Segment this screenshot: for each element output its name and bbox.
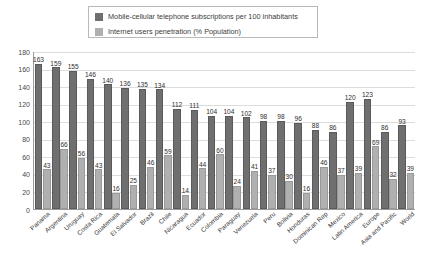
bar: 146 (87, 79, 95, 209)
bar-group: 13546 (138, 52, 155, 209)
y-tick-label: 80 (5, 136, 30, 143)
bar: 159 (52, 67, 60, 209)
legend-item-mobile: Mobile-cellular telephone subscriptions … (95, 10, 312, 23)
bar-group: 10241 (242, 52, 259, 209)
bar: 14 (182, 195, 190, 209)
bar-value-label: 159 (50, 61, 61, 68)
legend-item-internet: Internet users penetration (% Population… (95, 25, 312, 38)
bar: 136 (121, 88, 129, 209)
bar-chart: Mobile-cellular telephone subscriptions … (0, 0, 422, 273)
legend-label-internet: Internet users penetration (% Population… (108, 28, 241, 36)
bar: 37 (337, 175, 345, 209)
bar: 46 (320, 167, 328, 209)
bar: 60 (216, 154, 224, 209)
bar-value-label: 43 (95, 163, 102, 170)
bar-value-label: 136 (120, 81, 131, 88)
bar-group: 9837 (259, 52, 276, 209)
bar-value-label: 98 (260, 114, 267, 121)
bar-group: 8637 (328, 52, 345, 209)
bar-value-label: 44 (199, 162, 206, 169)
bar: 44 (199, 168, 207, 209)
bar-group: 11214 (173, 52, 190, 209)
bar-value-label: 24 (234, 179, 241, 186)
y-tick-label: 20 (5, 189, 30, 196)
bar-value-label: 93 (398, 119, 405, 126)
bar-value-label: 16 (112, 186, 119, 193)
y-tick-label: 120 (5, 101, 30, 108)
bar: 98 (260, 121, 268, 209)
bar-series-container: 1634315966155561464314016136251354613459… (34, 52, 415, 209)
bar: 32 (389, 179, 397, 209)
bar-group: 15556 (69, 52, 86, 209)
bar-value-label: 86 (381, 125, 388, 132)
bar-group: 13625 (121, 52, 138, 209)
bar: 16 (303, 193, 311, 209)
y-tick-label: 160 (5, 66, 30, 73)
bar: 102 (243, 117, 251, 209)
bar-value-label: 98 (277, 114, 284, 121)
bar: 16 (112, 193, 120, 209)
bar: 98 (277, 121, 285, 209)
bar: 135 (139, 89, 147, 210)
bar-group: 11144 (190, 52, 207, 209)
bar-value-label: 56 (78, 151, 85, 158)
bar-group: 12039 (346, 52, 363, 209)
bar: 104 (225, 116, 233, 209)
bar-value-label: 46 (147, 160, 154, 167)
y-tick-label: 40 (5, 171, 30, 178)
bar-group: 9830 (276, 52, 293, 209)
plot-area: 1634315966155561464314016136251354613459… (33, 52, 415, 210)
bar-value-label: 59 (164, 149, 171, 156)
bar-group: 14016 (103, 52, 120, 209)
y-tick-label: 180 (5, 49, 30, 56)
bar-value-label: 41 (251, 164, 258, 171)
bar: 86 (329, 132, 337, 209)
bar: 46 (147, 167, 155, 209)
bar-value-label: 30 (286, 174, 293, 181)
bar: 134 (156, 89, 164, 209)
chart-legend: Mobile-cellular telephone subscriptions … (88, 6, 318, 38)
bar-group: 14643 (86, 52, 103, 209)
bar-group: 13459 (155, 52, 172, 209)
bar-value-label: 104 (206, 109, 217, 116)
bar-value-label: 146 (85, 72, 96, 79)
bar-value-label: 14 (182, 188, 189, 195)
x-tick-label: World (399, 211, 416, 227)
bar-value-label: 16 (303, 186, 310, 193)
bar: 37 (268, 175, 276, 209)
bar: 155 (69, 71, 77, 209)
bar-value-label: 37 (337, 168, 344, 175)
bar: 120 (346, 102, 354, 209)
bar: 104 (208, 116, 216, 209)
bar: 123 (364, 99, 372, 209)
bar-value-label: 39 (407, 166, 414, 173)
bar: 25 (130, 185, 138, 209)
bar-value-label: 140 (102, 78, 113, 85)
bar-value-label: 163 (33, 57, 44, 64)
bar: 163 (35, 64, 43, 209)
bar-group: 16343 (34, 52, 51, 209)
bar-group: 10460 (207, 52, 224, 209)
bar-value-label: 134 (154, 83, 165, 90)
bar: 111 (191, 110, 199, 209)
bar: 86 (381, 132, 389, 209)
bar-value-label: 112 (172, 102, 183, 109)
bar-value-label: 111 (189, 103, 199, 110)
bar-value-label: 46 (320, 160, 327, 167)
bar-value-label: 88 (312, 123, 319, 130)
bar-value-label: 120 (345, 95, 356, 102)
bar-value-label: 155 (68, 64, 79, 71)
bar-group: 10424 (224, 52, 241, 209)
bar: 43 (43, 169, 51, 209)
bar-value-label: 37 (268, 168, 275, 175)
bar: 24 (233, 186, 241, 209)
bar: 69 (372, 146, 380, 209)
x-axis-labels: PanamaArgentinaUruguayCosta RicaGuatemal… (33, 211, 415, 273)
bar-group: 12369 (363, 52, 380, 209)
legend-label-mobile: Mobile-cellular telephone subscriptions … (108, 13, 298, 21)
bar-value-label: 135 (137, 82, 148, 89)
bar: 140 (104, 84, 112, 209)
bar-value-label: 39 (355, 166, 362, 173)
bar: 59 (164, 155, 172, 209)
y-axis: 180160140120100806040200 (5, 52, 30, 210)
